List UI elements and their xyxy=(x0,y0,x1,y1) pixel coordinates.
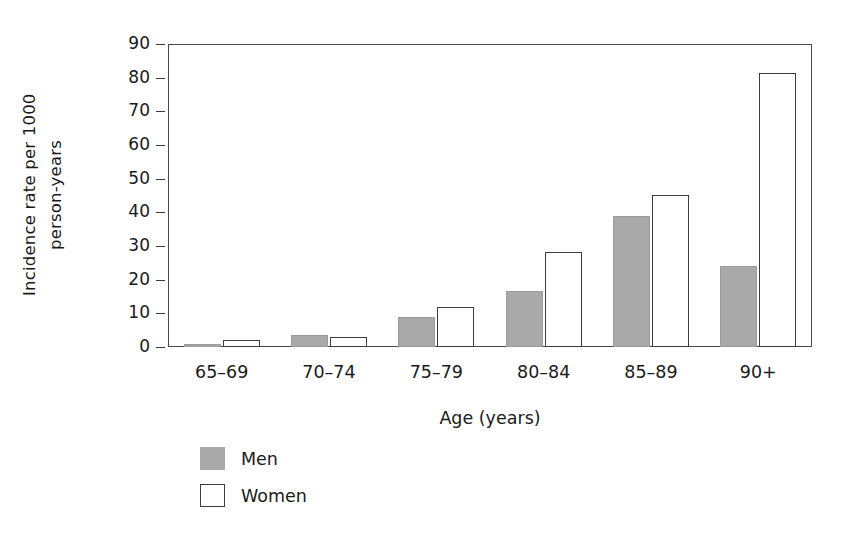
legend-item-men: Men xyxy=(200,443,307,474)
y-axis-tick-mark xyxy=(156,111,165,112)
y-axis-tick-mark xyxy=(156,347,165,348)
bar-men-80_84 xyxy=(506,291,543,347)
y-axis-tick-mark xyxy=(156,44,165,45)
bar-men-85_89 xyxy=(613,216,650,347)
x-axis-tick-label: 85–89 xyxy=(597,362,704,382)
bar-men-70_74 xyxy=(291,335,328,347)
bar-women-65_69 xyxy=(223,340,260,347)
bar-women-80_84 xyxy=(545,252,582,347)
y-axis-tick-mark xyxy=(156,145,165,146)
bar-women-90+ xyxy=(759,73,796,347)
x-axis-tick-label: 90+ xyxy=(705,362,812,382)
bar-women-70_74 xyxy=(330,337,367,347)
y-axis-tick-label: 30 xyxy=(110,237,150,254)
y-axis-tick-mark xyxy=(156,246,165,247)
bar-women-85_89 xyxy=(652,195,689,347)
bar-men-75_79 xyxy=(398,317,435,347)
x-axis-tick-label: 80–84 xyxy=(490,362,597,382)
legend-item-women: Women xyxy=(200,480,307,511)
y-axis-tick-label: 60 xyxy=(110,136,150,153)
y-axis-tick-mark xyxy=(156,212,165,213)
y-axis-tick-label: 40 xyxy=(110,203,150,220)
legend-swatch-men xyxy=(200,447,225,470)
y-axis-tick-mark xyxy=(156,78,165,79)
bar-men-90+ xyxy=(720,266,757,347)
y-axis-tick-mark xyxy=(156,313,165,314)
bar-women-75_79 xyxy=(437,307,474,347)
x-axis-title: Age (years) xyxy=(168,408,812,428)
y-axis-tick-label: 0 xyxy=(110,338,150,355)
x-axis-tick-label: 65–69 xyxy=(168,362,275,382)
y-axis-tick-mark xyxy=(156,280,165,281)
legend-label: Women xyxy=(241,486,307,506)
y-axis-tick-mark xyxy=(156,179,165,180)
x-axis-tick-label: 70–74 xyxy=(275,362,382,382)
bar-men-65_69 xyxy=(184,344,221,347)
bars-layer xyxy=(168,44,812,347)
y-axis-title-line-1: Incidence rate per 1000 xyxy=(16,40,42,350)
bar-chart-figure: Incidence rate per 1000 person-years 010… xyxy=(0,0,856,537)
y-axis-title-line-2: person-years xyxy=(42,40,68,350)
chart-legend: MenWomen xyxy=(200,443,307,517)
y-axis-title: Incidence rate per 1000 person-years xyxy=(14,40,70,350)
y-axis-tick-label: 10 xyxy=(110,304,150,321)
legend-label: Men xyxy=(241,449,278,469)
y-axis-tick-label: 90 xyxy=(110,35,150,52)
y-axis-tick-label: 20 xyxy=(110,271,150,288)
legend-swatch-women xyxy=(200,484,225,507)
y-axis-tick-label: 50 xyxy=(110,170,150,187)
x-axis-tick-label: 75–79 xyxy=(383,362,490,382)
y-axis-tick-label: 70 xyxy=(110,102,150,119)
y-axis-tick-label: 80 xyxy=(110,69,150,86)
